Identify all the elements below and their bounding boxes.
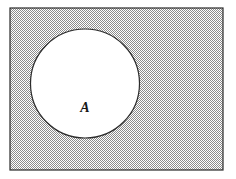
venn-diagram-figure: A	[0, 0, 236, 179]
venn-diagram-canvas	[0, 0, 236, 179]
set-a-label: A	[78, 101, 92, 115]
